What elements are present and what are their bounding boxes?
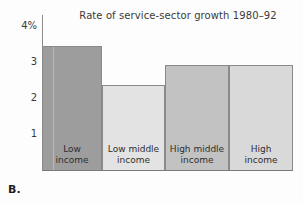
- bar-label-line: income: [230, 155, 292, 166]
- bar-low-middle-income: Low middleincome: [102, 85, 165, 170]
- bar-high-middle-income: High middleincome: [165, 65, 229, 170]
- x-axis-line: [42, 170, 293, 171]
- bar-label-line: income: [43, 155, 101, 166]
- y-tick-label: 2: [0, 93, 37, 103]
- y-tick-label: 4%: [0, 21, 37, 31]
- figure-panel-b: Rate of service-sector growth 1980–92 4%…: [0, 0, 303, 202]
- bar-label: Low middleincome: [103, 144, 164, 166]
- bar-high-income: Highincome: [229, 65, 293, 170]
- bar-label-line: Low: [43, 144, 101, 155]
- bar-label-line: income: [166, 155, 228, 166]
- bar-label-line: Low middle: [103, 144, 164, 155]
- bar-low-income: Lowincome: [42, 46, 102, 170]
- figure-caption: B.: [8, 183, 21, 196]
- bar-label-line: income: [103, 155, 164, 166]
- bar-label: Highincome: [230, 144, 292, 166]
- plot-area: LowincomeLow middleincomeHigh middleinco…: [42, 15, 293, 170]
- bar-label: Lowincome: [43, 144, 101, 166]
- bar-label: High middleincome: [166, 144, 228, 166]
- y-tick-label: 3: [0, 57, 37, 67]
- bar-label-line: High middle: [166, 144, 228, 155]
- bar-label-line: High: [230, 144, 292, 155]
- y-tick-label: 1: [0, 129, 37, 139]
